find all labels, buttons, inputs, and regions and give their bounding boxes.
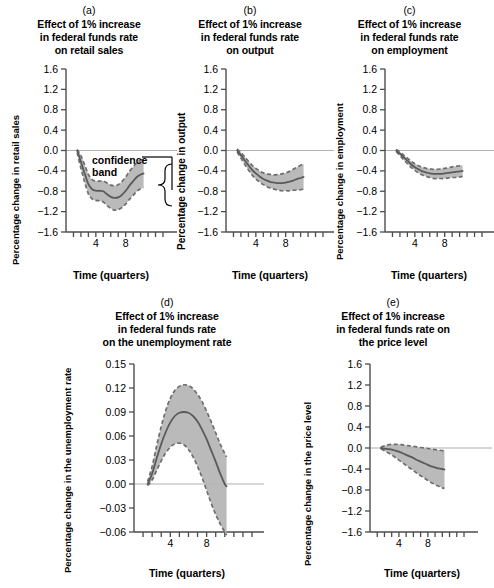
panel-a-letter: (a) [0, 4, 178, 17]
panel-e-y-axis-label: Percentage change in the price level [302, 402, 313, 566]
panel-d-letter: (d) [52, 296, 282, 309]
panel-d-plot: Percentage change in the unemployment ra… [52, 352, 282, 588]
y-tick-label: −1.2 [197, 205, 218, 217]
x-tick-label: 8 [442, 237, 448, 249]
y-tick-label: −0.03 [99, 502, 126, 514]
y-tick-label: 0.12 [106, 382, 127, 394]
panel-b-title-line-3: on output [166, 44, 334, 57]
y-tick-label: 0.0 [203, 144, 218, 156]
y-tick-label: −0.4 [341, 463, 362, 475]
panel-d-title-line-3: on the unemployment rate [52, 336, 282, 349]
panel-a-x-axis-label: Time (quarters) [46, 269, 176, 281]
y-tick-label: −0.4 [356, 164, 377, 176]
panel-a-title: Effect of 1% increase in federal funds r… [0, 18, 178, 57]
confidence-annotation-line-2: band [92, 166, 147, 178]
x-tick-label: 4 [167, 537, 173, 549]
x-tick-label: 4 [412, 237, 418, 249]
y-tick-label: 0.06 [106, 430, 127, 442]
y-tick-label: 1.6 [203, 63, 218, 75]
y-tick-label: −0.4 [37, 164, 58, 176]
panel-d-title: Effect of 1% increase in federal funds r… [52, 310, 282, 349]
panel-c-y-axis-label: Percentage change in employment [334, 103, 345, 260]
panel-e-title-line-3: the price level [292, 336, 494, 349]
panel-c-title: Effect of 1% increase in federal funds r… [325, 18, 494, 57]
y-tick-label: 0.00 [106, 478, 127, 490]
panel-a: (a) Effect of 1% increase in federal fun… [0, 4, 178, 289]
y-tick-label: 0.8 [347, 400, 362, 412]
panel-d-title-line-2: in federal funds rate [52, 323, 282, 336]
y-tick-label: 0.4 [43, 124, 58, 136]
y-tick-label: −1.6 [37, 226, 58, 238]
y-tick-label: 0.8 [203, 103, 218, 115]
x-tick-label: 4 [93, 237, 99, 249]
y-tick-label: 0.8 [43, 103, 58, 115]
panel-b-x-axis-label: Time (quarters) [206, 269, 334, 281]
panel-b-letter: (b) [166, 4, 334, 17]
y-tick-label: 1.2 [43, 83, 58, 95]
panel-e-svg: 1.61.20.80.40.0−0.4−0.8−1.2−1.648 [292, 352, 494, 588]
y-tick-label: 0.0 [43, 144, 58, 156]
panel-c-title-line-1: Effect of 1% increase [325, 18, 494, 31]
y-tick-label: 0.4 [347, 421, 362, 433]
y-tick-label: 1.6 [362, 63, 377, 75]
panel-c: (c) Effect of 1% increase in federal fun… [325, 4, 494, 289]
y-tick-label: −1.6 [197, 226, 218, 238]
x-tick-label: 4 [253, 237, 259, 249]
y-tick-label: −1.6 [356, 226, 377, 238]
y-tick-label: 1.2 [362, 83, 377, 95]
y-tick-label: 1.2 [347, 379, 362, 391]
panel-e-title-line-2: in federal funds rate on [292, 323, 494, 336]
panel-e-title-line-1: Effect of 1% increase [292, 310, 494, 323]
panel-b: (b) Effect of 1% increase in federal fun… [166, 4, 334, 289]
y-tick-label: −1.6 [341, 526, 362, 538]
y-tick-label: 1.6 [347, 358, 362, 370]
panel-b-title-line-2: in federal funds rate [166, 31, 334, 44]
y-tick-label: 0.03 [106, 454, 127, 466]
y-tick-label: −1.2 [37, 205, 58, 217]
x-tick-label: 8 [123, 237, 129, 249]
y-tick-label: 0.8 [362, 103, 377, 115]
y-tick-label: 0.15 [106, 358, 127, 370]
confidence-annotation-line-1: confidence [92, 154, 147, 166]
panel-d-svg: 0.150.120.090.060.030.00−0.03−0.0648 [52, 352, 282, 588]
impulse-response-figure: (a) Effect of 1% increase in federal fun… [0, 0, 494, 588]
panel-e: (e) Effect of 1% increase in federal fun… [292, 296, 494, 588]
panel-b-y-axis-label: Percentage change in output [176, 113, 187, 250]
panel-d-title-line-1: Effect of 1% increase [52, 310, 282, 323]
x-tick-label: 8 [425, 537, 431, 549]
panel-d: (d) Effect of 1% increase in federal fun… [52, 296, 282, 588]
panel-b-title: Effect of 1% increase in federal funds r… [166, 18, 334, 57]
panel-b-title-line-1: Effect of 1% increase [166, 18, 334, 31]
panel-c-letter: (c) [325, 4, 494, 17]
y-tick-label: 0.0 [347, 442, 362, 454]
x-tick-label: 8 [283, 237, 289, 249]
y-tick-label: −0.8 [356, 185, 377, 197]
y-tick-label: −0.8 [37, 185, 58, 197]
confidence-band-area [381, 444, 445, 488]
panel-a-title-line-1: Effect of 1% increase [0, 18, 178, 31]
y-tick-label: 0.09 [106, 406, 127, 418]
panel-b-svg: 1.61.20.80.40.0−0.4−0.8−1.2−1.648 [166, 57, 334, 289]
panel-e-plot: Percentage change in the price level 1.6… [292, 352, 494, 588]
y-tick-label: −0.8 [197, 185, 218, 197]
y-tick-label: −0.4 [197, 164, 218, 176]
y-tick-label: 1.2 [203, 83, 218, 95]
x-tick-label: 4 [396, 537, 402, 549]
panel-c-title-line-2: in federal funds rate [325, 31, 494, 44]
y-tick-label: −1.2 [341, 505, 362, 517]
panel-a-svg: 1.61.20.80.40.0−0.4−0.8−1.2−1.648 [0, 57, 178, 289]
x-tick-label: 8 [204, 537, 210, 549]
panel-e-title: Effect of 1% increase in federal funds r… [292, 310, 494, 349]
panel-a-y-axis-label: Percentage change in retail sales [10, 115, 21, 265]
panel-c-x-axis-label: Time (quarters) [365, 269, 493, 281]
y-tick-label: 0.4 [362, 124, 377, 136]
panel-d-x-axis-label: Time (quarters) [112, 567, 262, 579]
panel-b-plot: Percentage change in output 1.61.20.80.4… [166, 57, 334, 289]
y-tick-label: 0.0 [362, 144, 377, 156]
y-tick-label: −0.06 [99, 526, 126, 538]
panel-d-y-axis-label: Percentage change in the unemployment ra… [62, 368, 73, 573]
y-tick-label: −0.8 [341, 484, 362, 496]
panel-a-title-line-2: in federal funds rate [0, 31, 178, 44]
panel-c-svg: 1.61.20.80.40.0−0.4−0.8−1.2−1.648 [325, 57, 494, 289]
y-tick-label: −1.2 [356, 205, 377, 217]
